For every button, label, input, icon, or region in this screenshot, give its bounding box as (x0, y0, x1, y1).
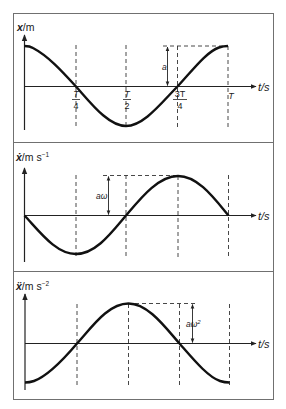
x-axis-label: t/s (258, 81, 270, 93)
tick-T: T (228, 91, 235, 101)
amplitude-label: a (162, 62, 167, 72)
y-axis-label-unit: /m s (22, 280, 42, 292)
y-axis-label-unit: /m s (22, 151, 42, 163)
figure-frame (14, 14, 274, 400)
svg-text:ẋ/m s−1: ẋ/m s−1 (15, 151, 49, 163)
svg-text:3T: 3T (175, 89, 186, 99)
y-axis-label-unit: /m (23, 21, 35, 33)
shm-figure: x/m t/s a T 4 T 2 3T 4 T (0, 0, 286, 409)
velocity-panel: ẋ/m s−1 t/s aω (15, 151, 270, 262)
acceleration-panel: ẍ/m s−2 t/s aω2 (15, 280, 270, 390)
svg-text:4: 4 (73, 101, 78, 111)
svg-text:2: 2 (124, 101, 129, 111)
amplitude-label: aω2 (186, 319, 201, 329)
tick-3T-over-4: 3T 4 (173, 89, 187, 111)
svg-text:ẍ/m s−2: ẍ/m s−2 (15, 280, 49, 292)
x-axis-label: t/s (258, 338, 270, 350)
y-axis-label-exponent: −2 (42, 280, 50, 287)
tick-T-over-2: T 2 (123, 89, 131, 111)
x-axis-label: t/s (258, 210, 270, 222)
svg-text:T: T (124, 89, 131, 99)
tick-T-over-4: T 4 (72, 89, 80, 111)
svg-text:x/m: x/m (16, 21, 35, 33)
svg-text:T: T (228, 91, 235, 101)
svg-text:4: 4 (177, 101, 182, 111)
amplitude-label: aω (96, 191, 108, 201)
y-axis-label-exponent: −1 (42, 151, 50, 158)
displacement-panel: x/m t/s a T 4 T 2 3T 4 T (16, 21, 270, 130)
